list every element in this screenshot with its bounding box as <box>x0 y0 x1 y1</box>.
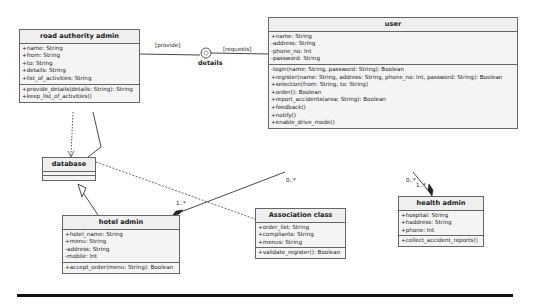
attributes-section: +hotel_name: String +menu: String -addre… <box>63 230 179 263</box>
attributes-section: +name: String -address: String -phone_no… <box>269 32 517 65</box>
operation: +feedback() <box>271 104 515 112</box>
class-database: database <box>42 157 96 181</box>
attribute: -address: String <box>271 40 515 48</box>
attribute: +haddress: String <box>401 219 481 227</box>
requests-connector <box>211 53 268 54</box>
attribute: +menus: String <box>258 239 343 247</box>
provide-label: [provide] <box>155 42 180 48</box>
attribute: +order_list: String <box>258 224 343 232</box>
operation: +notify() <box>271 112 515 120</box>
operations-section: +accept_order(menu: String): Boolean <box>63 263 179 273</box>
user-hotel-association <box>178 172 285 213</box>
attribute: +details: String <box>22 67 137 75</box>
operations-section <box>43 176 95 180</box>
attributes-section: +hospital: String +haddress: String +pho… <box>399 211 483 237</box>
attribute: -mobile: Int <box>65 253 177 261</box>
attribute: +to: String <box>22 60 137 68</box>
user-hotel-multiplicity-hotel: 1..* <box>176 200 186 206</box>
requests-label: [requests] <box>223 46 252 52</box>
attribute: +hospital: String <box>401 212 481 220</box>
class-title: hotel admin <box>63 216 179 230</box>
attribute: +name: String <box>22 45 137 53</box>
operation: +accept_order(menu: String): Boolean <box>65 264 177 272</box>
class-health-admin: health admin +hospital: String +haddress… <box>398 196 484 247</box>
class-title: user <box>269 18 517 32</box>
attribute: +menu: String <box>65 238 177 246</box>
road-admin-database-link <box>88 112 101 157</box>
provide-connector <box>140 54 200 55</box>
user-health-multiplicity-health: 1..* <box>416 182 426 188</box>
class-hotel-admin: hotel admin +hotel_name: String +menu: S… <box>62 215 180 274</box>
attribute: +compliants: String <box>258 231 343 239</box>
operation: +validate_register(): Boolean <box>258 249 343 257</box>
attribute: +hotel_name: String <box>65 231 177 239</box>
operation: +keep_list_of_activities() <box>22 93 137 101</box>
attribute: -address: String <box>65 246 177 254</box>
attribute: +phone: Int <box>401 227 481 235</box>
road-admin-database-dependency <box>71 112 73 155</box>
attributes-section: +order_list: String +compliants: String … <box>256 223 345 249</box>
operations-section: +validate_register(): Boolean <box>256 248 345 258</box>
operations-section: -login(name: String, password: String): … <box>269 65 517 128</box>
class-road-authority-admin: road authority admin +name: String +from… <box>19 29 140 103</box>
details-interface-label: details <box>198 59 222 67</box>
operations-section: +provide_details(details: String): Strin… <box>20 85 139 102</box>
class-association-class: Association class +order_list: String +c… <box>255 208 346 259</box>
operations-section: +collect_accident_reports() <box>399 236 483 246</box>
operation: +enable_drive_mode() <box>271 119 515 127</box>
operation: +order(): Boolean <box>271 89 515 97</box>
class-title: health admin <box>399 197 483 211</box>
operation: +report_accidents(area: String): Boolean <box>271 96 515 104</box>
class-title: Association class <box>256 209 345 223</box>
user-hotel-multiplicity-user: 0..* <box>286 177 296 183</box>
operation: +provide_details(details: String): Strin… <box>22 86 137 94</box>
user-health-multiplicity-user: 0..* <box>406 177 416 183</box>
attributes-section: +name: String +from: String +to: String … <box>20 44 139 85</box>
attribute: +from: String <box>22 52 137 60</box>
attribute: -phone_no: Int <box>271 48 515 56</box>
bottom-divider <box>17 294 513 297</box>
class-user: user +name: String -address: String -pho… <box>268 17 518 129</box>
hotel-database-generalization <box>84 194 98 215</box>
attribute: +list_of_activities: String <box>22 75 137 83</box>
operation: -login(name: String, password: String): … <box>271 66 515 74</box>
attribute: -password: String <box>271 55 515 63</box>
database-association-dashed <box>96 162 255 219</box>
operation: +selection(from: String, to: String) <box>271 81 515 89</box>
attribute: +name: String <box>271 33 515 41</box>
class-title: road authority admin <box>20 30 139 44</box>
details-interface-icon <box>201 48 211 58</box>
class-title: database <box>43 158 95 172</box>
operation: +register(name: String, address: String,… <box>271 74 515 82</box>
operation: +collect_accident_reports() <box>401 237 481 245</box>
